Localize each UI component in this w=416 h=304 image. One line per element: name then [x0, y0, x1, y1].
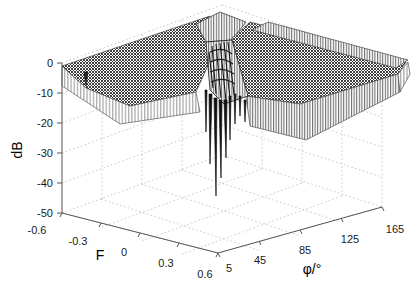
- axis-z-ticks: [57, 63, 62, 213]
- mesh-surface: [62, 12, 410, 196]
- axis-z-title: dB: [9, 141, 25, 158]
- figure-3d-surface-plot: 0 -10 -20 -30 -40 -50 -0.6 -0.3 0 0.3 0.…: [0, 0, 416, 304]
- x-tick-label: -0.6: [28, 224, 47, 236]
- grid-floor: [62, 155, 382, 254]
- z-tick-label: -10: [37, 87, 53, 99]
- x-tick-label: 0: [121, 246, 127, 258]
- y-tick-label: 45: [254, 254, 266, 266]
- y-tick-label: 85: [299, 244, 311, 256]
- z-tick-label: 0: [47, 57, 53, 69]
- y-tick-label: 125: [341, 233, 359, 245]
- axis-x-title: F: [96, 247, 105, 263]
- z-tick-label: -20: [37, 117, 53, 129]
- axis-z-ticklabels: 0 -10 -20 -30 -40 -50: [37, 57, 53, 219]
- plot-canvas: 0 -10 -20 -30 -40 -50 -0.6 -0.3 0 0.3 0.…: [0, 0, 416, 304]
- axis-y-title: φ/°: [303, 261, 322, 277]
- z-tick-label: -40: [37, 177, 53, 189]
- x-tick-label: 0.6: [197, 268, 212, 280]
- axis-x-ticklabels: -0.6 -0.3 0 0.3 0.6: [28, 224, 213, 280]
- y-tick-label: 165: [386, 223, 404, 235]
- x-tick-label: 0.3: [158, 257, 173, 269]
- x-tick-label: -0.3: [69, 235, 88, 247]
- y-tick-label: 5: [226, 262, 232, 274]
- z-tick-label: -50: [37, 207, 53, 219]
- z-tick-label: -30: [37, 147, 53, 159]
